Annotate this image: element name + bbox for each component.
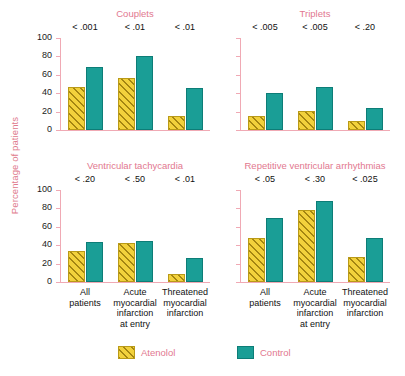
- bar-control: [266, 93, 283, 130]
- bar-control: [186, 258, 203, 282]
- y-axis-tick: [56, 245, 60, 246]
- y-axis-tick: [236, 112, 240, 113]
- bar-atenolol: [68, 251, 85, 282]
- bar-control: [316, 87, 333, 130]
- y-axis-title: Percentage of patients: [9, 91, 20, 241]
- y-axis-tick: [56, 227, 60, 228]
- bar-control: [86, 67, 103, 130]
- x-axis-category-label: Threatened myocardial infarction: [152, 287, 218, 319]
- p-value-annotation: < .01: [155, 174, 215, 184]
- y-axis-tick: [56, 264, 60, 265]
- y-axis-tick: [56, 282, 60, 283]
- y-axis-tick: [236, 190, 240, 191]
- bar-atenolol: [298, 111, 315, 130]
- bar-atenolol: [348, 121, 365, 130]
- bar-atenolol: [248, 238, 265, 282]
- panel-title: Repetitive ventricular arrhythmias: [240, 160, 390, 171]
- plot-area: [240, 190, 390, 282]
- bar-atenolol: [348, 257, 365, 282]
- y-axis-tick-label: 40: [20, 87, 52, 97]
- p-value-annotation: < .025: [335, 174, 395, 184]
- y-axis-tick-label: 20: [20, 258, 52, 268]
- x-axis-line: [60, 130, 210, 131]
- y-axis-tick: [236, 93, 240, 94]
- chart-figure: Percentage of patients Atenolol Control …: [0, 0, 405, 376]
- x-axis-category-label: Threatened myocardial infarction: [332, 287, 398, 319]
- bar-atenolol: [118, 78, 135, 130]
- y-axis-tick: [236, 282, 240, 283]
- bar-control: [366, 238, 383, 282]
- panel-title: Triplets: [240, 8, 390, 19]
- x-axis-line: [240, 130, 390, 131]
- y-axis-tick-label: 100: [20, 32, 52, 42]
- y-axis-tick: [236, 38, 240, 39]
- y-axis-tick: [56, 75, 60, 76]
- bar-control: [86, 242, 103, 282]
- p-value-annotation: < .01: [155, 22, 215, 32]
- y-axis-tick: [236, 56, 240, 57]
- y-axis-tick: [56, 38, 60, 39]
- y-axis-tick-label: 20: [20, 106, 52, 116]
- panel-title: Ventricular tachycardia: [60, 160, 210, 171]
- y-axis-tick: [56, 208, 60, 209]
- y-axis-tick: [236, 130, 240, 131]
- bar-control: [136, 56, 153, 130]
- y-axis-tick-label: 0: [20, 276, 52, 286]
- y-axis-tick: [236, 208, 240, 209]
- chart-panel: Repetitive ventricular arrhythmias< .05A…: [218, 160, 390, 352]
- y-axis-tick: [56, 130, 60, 131]
- plot-area: [240, 38, 390, 130]
- y-axis-tick: [56, 56, 60, 57]
- y-axis-line: [60, 190, 61, 282]
- y-axis-tick-label: 80: [20, 50, 52, 60]
- y-axis-tick: [56, 93, 60, 94]
- bar-control: [136, 241, 153, 282]
- bar-atenolol: [298, 210, 315, 282]
- bar-atenolol: [168, 274, 185, 282]
- y-axis-tick: [236, 227, 240, 228]
- bar-atenolol: [248, 116, 265, 130]
- y-axis-tick-label: 40: [20, 239, 52, 249]
- y-axis-line: [240, 190, 241, 282]
- bar-control: [266, 218, 283, 282]
- y-axis-tick: [236, 75, 240, 76]
- plot-area: 020406080100: [60, 38, 210, 130]
- bar-atenolol: [118, 243, 135, 282]
- panel-title: Couplets: [60, 8, 210, 19]
- y-axis-tick-label: 0: [20, 124, 52, 134]
- y-axis-tick-label: 60: [20, 69, 52, 79]
- bar-atenolol: [68, 87, 85, 130]
- y-axis-tick-label: 60: [20, 221, 52, 231]
- y-axis-tick: [56, 112, 60, 113]
- y-axis-tick: [56, 190, 60, 191]
- bar-atenolol: [168, 116, 185, 130]
- p-value-annotation: < .20: [335, 22, 395, 32]
- y-axis-tick: [236, 245, 240, 246]
- y-axis-line: [60, 38, 61, 130]
- x-axis-line: [240, 282, 390, 283]
- bar-control: [366, 108, 383, 130]
- y-axis-tick: [236, 264, 240, 265]
- bar-control: [316, 201, 333, 282]
- y-axis-line: [240, 38, 241, 130]
- plot-area: 020406080100: [60, 190, 210, 282]
- chart-panel: Ventricular tachycardia< .20All patients…: [38, 160, 210, 352]
- bar-control: [186, 88, 203, 130]
- y-axis-tick-label: 80: [20, 202, 52, 212]
- y-axis-tick-label: 100: [20, 184, 52, 194]
- x-axis-line: [60, 282, 210, 283]
